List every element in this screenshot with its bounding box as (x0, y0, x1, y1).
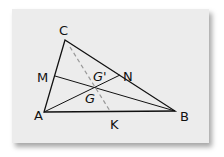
label-n: N (123, 69, 133, 84)
label-g-prime: G' (93, 69, 107, 84)
label-c: C (59, 23, 68, 38)
label-k: K (110, 117, 119, 132)
label-m: M (37, 70, 48, 85)
triangle-diagram: C M N G' G A K B (0, 0, 224, 157)
median-bm (55, 76, 175, 111)
label-a: A (34, 108, 43, 123)
label-g: G (85, 91, 95, 106)
label-b: B (180, 109, 189, 124)
triangle-abc (44, 40, 175, 112)
median-an (44, 75, 120, 112)
